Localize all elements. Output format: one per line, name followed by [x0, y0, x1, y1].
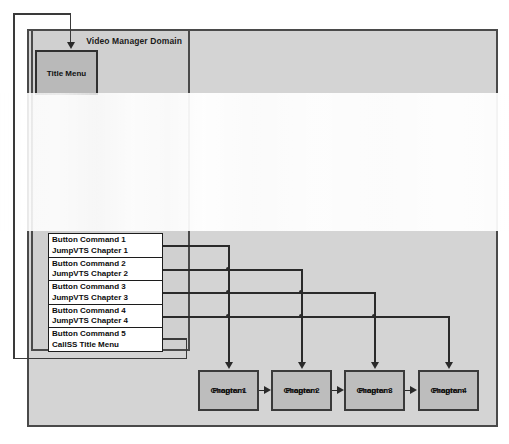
- chapter-1-program-box[interactable]: Chapter 1 Program: [198, 370, 259, 411]
- connector-cmd5-riser-up: [13, 13, 15, 359]
- chapter-3-program-box[interactable]: Chapter 3 Program: [344, 370, 405, 411]
- arrowhead-chapter-3: [371, 362, 379, 369]
- command-title: Button Command 2: [52, 259, 162, 270]
- list-item[interactable]: Button Command 3 JumpVTS Chapter 3: [49, 281, 162, 305]
- connector-cmd2-horizontal: [163, 269, 302, 271]
- arrowhead-chapter1-to-chapter2: [264, 386, 271, 394]
- chapter-name: Chapter 2: [273, 386, 330, 396]
- connector-cmd1-horizontal: [163, 245, 229, 247]
- chapter-name: Chapter 3: [346, 386, 403, 396]
- chapter-name: Chapter 4: [420, 386, 477, 396]
- command-action: CallSS Title Menu: [52, 340, 162, 351]
- command-title: Button Command 4: [52, 306, 162, 317]
- arrowhead-title-menu: [67, 42, 75, 49]
- command-title: Button Command 3: [52, 282, 162, 293]
- connector-cmd5-top-run: [13, 13, 71, 15]
- list-item[interactable]: Button Command 5 CallSS Title Menu: [49, 328, 162, 352]
- chapter-4-program-box[interactable]: Chapter 4 Program: [418, 370, 479, 411]
- arrowhead-chapter3-to-chapter4: [410, 386, 417, 394]
- list-item[interactable]: Button Command 2 JumpVTS Chapter 2: [49, 258, 162, 282]
- connector-cmd3-vertical: [374, 292, 376, 363]
- chapter-2-program-box[interactable]: Chapter 2 Program: [271, 370, 332, 411]
- connector-cmd4-vertical: [448, 316, 450, 363]
- video-manager-domain-label: Video Manager Domain: [86, 36, 182, 46]
- connector-cmd5-out-right: [163, 338, 187, 340]
- connector-cmd5-drop-to-title-menu: [70, 13, 72, 43]
- diagram-canvas: Video Manager Domain Title Menu Button C…: [0, 0, 509, 444]
- button-command-list: Button Command 1 JumpVTS Chapter 1 Butto…: [48, 233, 163, 352]
- command-action: JumpVTS Chapter 1: [52, 246, 162, 257]
- connector-cmd4-horizontal: [163, 316, 449, 318]
- command-title: Button Command 1: [52, 235, 162, 246]
- connector-cmd5-down: [186, 338, 188, 359]
- chapter-label: Chapter 2 Program: [273, 386, 330, 396]
- command-title: Button Command 5: [52, 329, 162, 340]
- connector-cmd5-left: [13, 358, 187, 360]
- chapter-label: Chapter 4 Program: [420, 386, 477, 396]
- arrowhead-chapter-4: [445, 362, 453, 369]
- chapter-label: Chapter 1 Program: [200, 386, 257, 396]
- title-menu-box[interactable]: Title Menu: [35, 50, 98, 95]
- connector-cmd1-vertical: [228, 245, 230, 363]
- command-action: JumpVTS Chapter 2: [52, 269, 162, 280]
- list-item[interactable]: Button Command 1 JumpVTS Chapter 1: [49, 234, 162, 258]
- chapter-name: Chapter 1: [200, 386, 257, 396]
- arrowhead-chapter2-to-chapter3: [337, 386, 344, 394]
- connector-cmd3-horizontal: [163, 292, 375, 294]
- command-action: JumpVTS Chapter 3: [52, 293, 162, 304]
- command-action: JumpVTS Chapter 4: [52, 316, 162, 327]
- title-menu-label: Title Menu: [37, 68, 96, 77]
- arrowhead-chapter-1: [225, 362, 233, 369]
- list-item[interactable]: Button Command 4 JumpVTS Chapter 4: [49, 305, 162, 329]
- arrowhead-chapter-2: [298, 362, 306, 369]
- chapter-label: Chapter 3 Program: [346, 386, 403, 396]
